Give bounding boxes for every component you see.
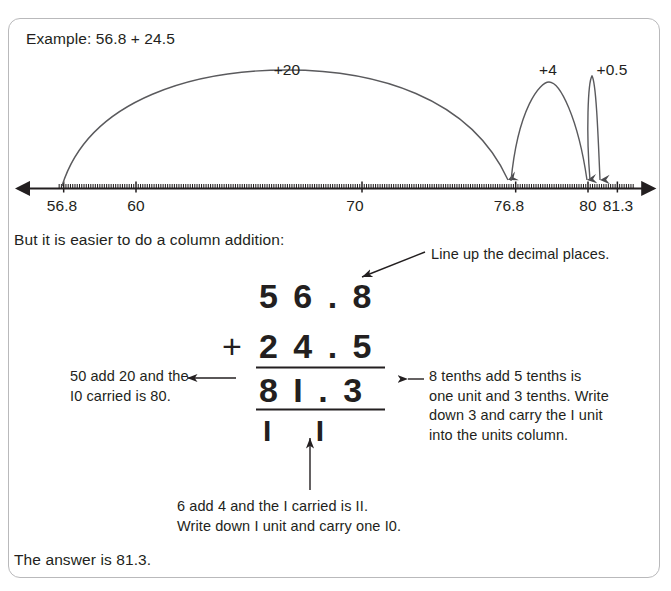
annotation-units-column: 6 add 4 and the I carried is II. Write d… [177,497,401,536]
numberline-ticks [59,182,633,193]
jump-arcs [62,70,600,186]
jump-arc-plus4 [511,82,587,181]
addend-second: 2 4 . 5 [259,327,375,366]
axis-label-76-8: 76.8 [494,197,525,215]
annotation-tenths-column: 8 tenths add 5 tenths is one unit and 3 … [429,367,655,445]
addend-first: 5 6 . 8 [259,277,375,316]
jump-label-plus05: +0.5 [597,61,628,79]
plus-operator: + [222,327,245,366]
jump-label-plus4: +4 [539,61,557,79]
worksheet-page: Example: 56.8 + 24.5 But it is easier to… [0,0,671,591]
axis-label-80: 80 [579,197,596,215]
axis-label-81-3: 81.3 [603,197,634,215]
jump-label-plus20: +20 [274,61,301,79]
jump-arc-plus05 [588,76,600,180]
axis-label-56-8: 56.8 [47,197,78,215]
axis-label-70: 70 [346,197,363,215]
annotation-tens-column: 50 add 20 and the I0 carried is 80. [70,367,189,406]
sum-result: 8 I . 3 [259,371,365,410]
annotation-decimal-places: Line up the decimal places. [431,245,609,265]
jump-arc-plus20 [62,70,508,186]
carry-marks: I I [263,414,342,448]
leader-decimal-places [362,252,425,277]
axis-label-60: 60 [127,197,144,215]
